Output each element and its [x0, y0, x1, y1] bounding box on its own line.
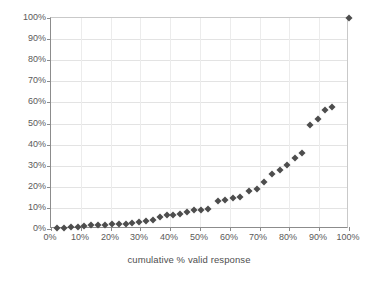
- x-axis-title: cumulative % valid response: [0, 254, 378, 265]
- x-axis-tick: [349, 227, 350, 231]
- data-point: [222, 197, 229, 204]
- data-point: [292, 155, 299, 162]
- x-axis-tick-label: 100%: [328, 233, 368, 242]
- gridline-horizontal: [51, 102, 347, 103]
- y-axis-tick: [47, 145, 51, 146]
- y-axis-tick: [47, 166, 51, 167]
- data-point: [143, 218, 150, 225]
- data-point: [307, 122, 314, 129]
- data-point: [53, 225, 60, 232]
- y-axis-tick-label: 50%: [6, 119, 46, 128]
- data-point: [60, 224, 67, 231]
- gridline-horizontal: [51, 60, 347, 61]
- data-point: [67, 224, 74, 231]
- gridline-vertical: [81, 18, 82, 227]
- data-point: [269, 171, 276, 178]
- data-point: [74, 223, 81, 230]
- gridline-vertical: [200, 18, 201, 227]
- x-axis-tick: [140, 227, 141, 231]
- data-point: [328, 104, 335, 111]
- gridline-vertical: [260, 18, 261, 227]
- y-axis-tick-label: 90%: [6, 34, 46, 43]
- y-axis-tick-label: 20%: [6, 182, 46, 191]
- data-point: [149, 217, 156, 224]
- y-axis-tick: [47, 124, 51, 125]
- data-point: [101, 221, 108, 228]
- y-axis-tick: [47, 18, 51, 19]
- x-axis-tick: [319, 227, 320, 231]
- y-axis-tick-label: 80%: [6, 55, 46, 64]
- data-point: [322, 106, 329, 113]
- gridline-horizontal: [51, 124, 347, 125]
- y-axis-tick-label: 60%: [6, 97, 46, 106]
- gridline-vertical: [170, 18, 171, 227]
- gridline-horizontal: [51, 39, 347, 40]
- chart-container: 100% 90% 80% 70% 60% 50% 40% 30% 20% 10%…: [0, 0, 378, 283]
- y-axis-tick-label: 70%: [6, 76, 46, 85]
- x-axis-tick: [51, 227, 52, 231]
- gridline-vertical: [111, 18, 112, 227]
- y-axis-tick-label: 100%: [6, 13, 46, 22]
- y-axis-tick: [47, 39, 51, 40]
- data-point: [204, 206, 211, 213]
- x-axis-tick: [260, 227, 261, 231]
- data-point: [108, 221, 115, 228]
- gridline-horizontal: [51, 81, 347, 82]
- data-point: [245, 187, 252, 194]
- y-axis-tick: [47, 60, 51, 61]
- x-axis-tick: [200, 227, 201, 231]
- data-point: [345, 14, 352, 21]
- data-point: [88, 222, 95, 229]
- y-axis-tick-label: 10%: [6, 203, 46, 212]
- data-point: [115, 220, 122, 227]
- data-point: [298, 149, 305, 156]
- y-axis-tick: [47, 187, 51, 188]
- gridline-vertical: [140, 18, 141, 227]
- y-axis-tick: [47, 81, 51, 82]
- x-axis-tick: [230, 227, 231, 231]
- gridline-horizontal: [51, 145, 347, 146]
- data-point: [170, 211, 177, 218]
- gridline-horizontal: [51, 166, 347, 167]
- y-axis-tick: [47, 102, 51, 103]
- y-axis-tick-label: 0%: [6, 224, 46, 233]
- data-point: [261, 178, 268, 185]
- data-point: [276, 167, 283, 174]
- gridline-vertical: [289, 18, 290, 227]
- gridline-horizontal: [51, 187, 347, 188]
- x-axis-tick: [289, 227, 290, 231]
- data-point: [314, 115, 321, 122]
- data-point: [129, 220, 136, 227]
- y-axis-tick: [47, 208, 51, 209]
- plot-area: [50, 17, 348, 228]
- data-point: [136, 219, 143, 226]
- y-axis-tick-label: 40%: [6, 140, 46, 149]
- x-axis-tick: [170, 227, 171, 231]
- data-point: [237, 193, 244, 200]
- gridline-vertical: [319, 18, 320, 227]
- y-axis-tick-label: 30%: [6, 161, 46, 170]
